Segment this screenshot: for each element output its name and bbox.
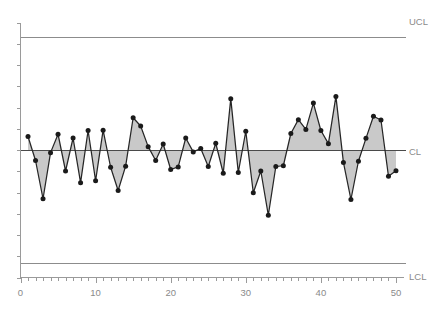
data-point [146, 144, 151, 149]
data-point [198, 146, 203, 151]
data-point [273, 164, 278, 169]
data-point [213, 141, 218, 146]
data-point [221, 171, 226, 176]
x-tick-label: 50 [391, 287, 402, 298]
data-point [341, 160, 346, 165]
data-point [183, 136, 188, 141]
lcl-label: LCL [409, 271, 426, 282]
x-tick-label: 30 [241, 287, 252, 298]
data-point [348, 197, 353, 202]
data-point [386, 174, 391, 179]
data-point [138, 124, 143, 129]
data-point [48, 150, 53, 155]
ucl-label: UCL [409, 16, 428, 27]
x-tick-label: 10 [90, 287, 101, 298]
data-point [168, 167, 173, 172]
data-point [393, 168, 398, 173]
data-point [228, 96, 233, 101]
data-point [116, 188, 121, 193]
data-point [243, 129, 248, 134]
data-point [123, 164, 128, 169]
data-point [206, 164, 211, 169]
data-point [296, 117, 301, 122]
data-point [326, 141, 331, 146]
data-point [258, 169, 263, 174]
control-chart: 01020304050 UCL CL LCL [0, 0, 445, 310]
data-point [131, 115, 136, 120]
data-point [266, 213, 271, 218]
data-point [281, 163, 286, 168]
data-point [318, 128, 323, 133]
data-point [71, 136, 76, 141]
x-tick-label: 20 [165, 287, 176, 298]
data-point [251, 190, 256, 195]
data-point [378, 118, 383, 123]
data-point [153, 158, 158, 163]
data-point [356, 159, 361, 164]
data-point [371, 114, 376, 119]
data-point [236, 170, 241, 175]
data-point [191, 149, 196, 154]
data-point [101, 128, 106, 133]
data-point [33, 158, 38, 163]
data-point [86, 128, 91, 133]
control-chart-canvas: 01020304050 UCL CL LCL [0, 0, 445, 310]
data-point [108, 165, 113, 170]
data-point [363, 136, 368, 141]
data-point [161, 142, 166, 147]
data-point [41, 196, 46, 201]
cl-label: CL [409, 146, 421, 157]
data-point [333, 94, 338, 99]
x-tick-label: 0 [18, 287, 23, 298]
data-point [288, 131, 293, 136]
data-point [303, 127, 308, 132]
data-point [93, 178, 98, 183]
data-point [56, 132, 61, 137]
data-point [311, 101, 316, 106]
data-point [26, 134, 31, 139]
data-point [176, 164, 181, 169]
data-point [78, 180, 83, 185]
data-point [63, 169, 68, 174]
x-tick-label: 40 [316, 287, 327, 298]
